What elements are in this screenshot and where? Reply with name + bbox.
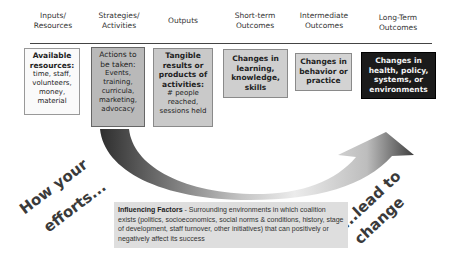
influencing-factors-title: Influencing Factors — [118, 206, 183, 213]
influencing-factors-box: Influencing Factors - Surrounding enviro… — [114, 202, 348, 248]
